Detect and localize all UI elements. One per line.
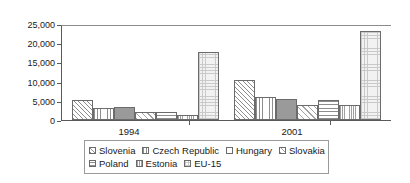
bar-group-2001 bbox=[234, 26, 389, 120]
legend-swatch-slovenia-icon bbox=[89, 147, 96, 154]
legend-label-czech-republic: Czech Republic bbox=[152, 146, 219, 156]
legend-item-slovakia: Slovakia bbox=[279, 146, 325, 156]
bar-poland-2001 bbox=[318, 100, 339, 120]
legend-label-slovakia: Slovakia bbox=[289, 146, 325, 156]
legend-swatch-hungary-icon bbox=[226, 147, 233, 154]
bar-czech-republic-1994 bbox=[93, 108, 114, 120]
bar-hungary-1994 bbox=[114, 107, 135, 120]
bar-czech-republic-2001 bbox=[255, 97, 276, 120]
legend-item-slovenia: Slovenia bbox=[89, 146, 135, 156]
bar-estonia-2001 bbox=[339, 105, 360, 120]
bar-eu-15-2001 bbox=[360, 31, 381, 120]
legend-item-estonia: Estonia bbox=[136, 159, 178, 169]
bar-estonia-1994 bbox=[177, 115, 198, 120]
x-axis-label-1994: 1994 bbox=[99, 126, 159, 137]
legend-label-hungary: Hungary bbox=[236, 146, 272, 156]
legend-label-slovenia: Slovenia bbox=[99, 146, 135, 156]
x-axis-label-2001: 2001 bbox=[262, 126, 322, 137]
legend-item-hungary: Hungary bbox=[226, 146, 272, 156]
legend-swatch-slovakia-icon bbox=[279, 147, 286, 154]
chart-legend: Slovenia Czech Republic Hungary Slovakia… bbox=[84, 140, 329, 174]
bar-slovenia-1994 bbox=[72, 100, 93, 120]
bar-slovenia-2001 bbox=[234, 80, 255, 120]
legend-label-eu-15: EU-15 bbox=[194, 159, 221, 169]
legend-swatch-czech-republic-icon bbox=[142, 147, 149, 154]
legend-swatch-poland-icon bbox=[89, 160, 96, 167]
bar-slovakia-2001 bbox=[297, 105, 318, 120]
legend-row-2: Poland Estonia EU-15 bbox=[89, 157, 324, 170]
bar-eu-15-1994 bbox=[198, 52, 219, 120]
x-axis-tick-mark bbox=[330, 121, 331, 125]
x-axis-tick-mark bbox=[189, 121, 190, 125]
y-axis-tick-label: 5,000 bbox=[0, 98, 55, 107]
y-axis-tick-label: 15,000 bbox=[0, 59, 55, 68]
y-axis-tick-label: 10,000 bbox=[0, 79, 55, 88]
legend-item-czech-republic: Czech Republic bbox=[142, 146, 219, 156]
legend-item-poland: Poland bbox=[89, 159, 129, 169]
legend-label-estonia: Estonia bbox=[146, 159, 178, 169]
bar-group-1994 bbox=[72, 26, 227, 120]
bar-hungary-2001 bbox=[276, 99, 297, 120]
y-axis-tick-mark bbox=[57, 121, 61, 122]
legend-label-poland: Poland bbox=[99, 159, 129, 169]
plot-area bbox=[61, 25, 391, 121]
legend-swatch-eu-15-icon bbox=[184, 160, 191, 167]
legend-item-eu-15: EU-15 bbox=[184, 159, 221, 169]
bar-poland-1994 bbox=[156, 112, 177, 120]
legend-swatch-estonia-icon bbox=[136, 160, 143, 167]
bar-chart: 25,000 20,000 15,000 10,000 5,000 0 EUR bbox=[0, 0, 410, 183]
bar-slovakia-1994 bbox=[135, 112, 156, 120]
y-axis-tick-label: 20,000 bbox=[0, 40, 55, 49]
y-axis-tick-label: 25,000 bbox=[0, 21, 55, 30]
legend-row-1: Slovenia Czech Republic Hungary Slovakia bbox=[89, 144, 324, 157]
y-axis-tick-label: 0 bbox=[0, 117, 55, 126]
